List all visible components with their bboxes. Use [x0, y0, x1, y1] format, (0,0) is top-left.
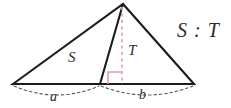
geometry-figure: S T a b S : T	[0, 0, 231, 108]
region-label-t: T	[128, 43, 136, 58]
measure-arc-b	[101, 86, 193, 95]
triangle-diagram-canvas	[0, 0, 231, 108]
ratio-expression: S : T	[177, 20, 220, 40]
base-label-b: b	[139, 88, 146, 102]
base-label-a: a	[50, 90, 57, 104]
right-angle-marker	[108, 72, 121, 84]
region-label-s: S	[68, 50, 76, 65]
